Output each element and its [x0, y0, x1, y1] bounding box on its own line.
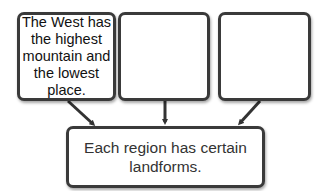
- arrow-detail-1-to-main: [68, 101, 93, 124]
- detail-box-3: [218, 12, 311, 101]
- main-idea-text: Each region has certain landforms.: [79, 138, 252, 176]
- detail-box-1: The West has the highest mountain and th…: [17, 12, 116, 101]
- main-idea-box: Each region has certain landforms.: [66, 126, 265, 188]
- detail-box-2: [118, 12, 210, 101]
- detail-box-1-text: The West has the highest mountain and th…: [20, 14, 113, 99]
- arrow-detail-3-to-main: [240, 101, 260, 123]
